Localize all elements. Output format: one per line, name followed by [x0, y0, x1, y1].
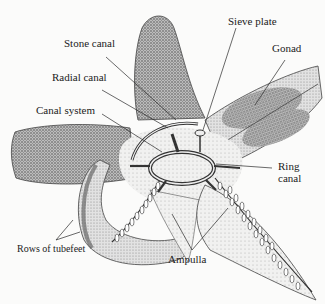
starfish-diagram: Sieve plate Stone canal Gonad Radial can…	[0, 0, 325, 304]
label-sieve-plate: Sieve plate	[228, 15, 277, 27]
label-ring-canal-line1: Ring	[278, 160, 299, 172]
label-ring-canal-line2: canal	[278, 172, 301, 184]
label-stone-canal: Stone canal	[64, 37, 115, 49]
label-gonad: Gonad	[272, 42, 301, 54]
left-arm	[11, 125, 135, 184]
label-radial-canal: Radial canal	[52, 71, 107, 83]
label-ampulla: Ampulla	[168, 253, 207, 265]
top-arm	[135, 16, 205, 120]
label-rows-of-tubefeet: Rows of tubefeet	[17, 243, 85, 255]
sieve-plate	[195, 130, 205, 136]
label-canal-system: Canal system	[36, 104, 95, 116]
